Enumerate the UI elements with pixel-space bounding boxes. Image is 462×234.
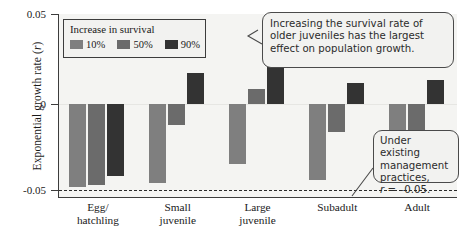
x-axis-category-label: Adult [377,201,457,214]
bar [69,104,86,187]
x-axis-category-label: Subadult [297,201,377,214]
legend-title: Increase in survival [70,23,200,36]
y-tick-label-bottom: -0.05 [2,184,46,196]
y-axis-title-close: ) [31,42,43,46]
callout-bottom-line3: practices, [380,172,452,184]
callout-bottom-line2: management [380,160,452,172]
x-axis-label-line1: Subadult [297,201,377,214]
bar [187,73,204,104]
y-tick-label-top: 0.05 [2,8,46,20]
bar [88,104,105,185]
x-axis-label-line1: Large [218,201,298,214]
annotation-callout-top: Increasing the survival rate of older ju… [262,12,454,68]
legend-entry: 50% [117,39,152,50]
x-axis-label-line1: Small [138,201,218,214]
y-tick-mark-top [51,14,58,15]
callout-bottom-line4: r = –0.05. [380,184,452,196]
callout-bottom-value: = –0.05. [384,184,430,195]
y-tick-mark-mid [51,104,58,105]
bar [149,104,166,183]
x-axis-label-line2: juvenile [138,214,218,227]
legend-entry-label: 10% [86,39,105,50]
legend-entry-label: 90% [181,39,200,50]
x-axis-label-line1: Egg/ [58,201,138,214]
bar [229,104,246,164]
x-axis-category-label: Egg/hatchling [58,201,138,227]
legend: Increase in survival 10%50%90% [63,19,206,58]
x-axis-category-label: Smalljuvenile [138,201,218,227]
bar [328,104,345,132]
legend-entry: 90% [165,39,200,50]
callout-bottom-line1: Under existing [380,135,452,160]
legend-swatch-icon [165,40,178,49]
annotation-callout-bottom: Under existing management practices, r =… [373,130,459,183]
legend-entries: 10%50%90% [70,39,200,50]
bar [107,104,124,176]
y-axis-title-text: Exponential growth rate ( [31,50,43,170]
bar [427,80,444,104]
legend-swatch-icon [70,40,83,49]
chart-figure: Exponential growth rate (r) 0.05 0 -0.05… [0,0,462,234]
bar [347,83,364,104]
y-axis-title-symbol: r [31,46,43,51]
x-axis-label-line2: juvenile [218,214,298,227]
bar [309,104,326,180]
y-tick-label-mid: 0 [2,98,46,110]
legend-entry: 10% [70,39,105,50]
x-axis-category-label: Largejuvenile [218,201,298,227]
legend-swatch-icon [117,40,130,49]
x-axis-labels: Egg/hatchlingSmalljuvenileLargejuvenileS… [58,201,457,233]
legend-entry-label: 50% [133,39,152,50]
x-axis-label-line2: hatchling [58,214,138,227]
bar [168,104,185,125]
y-tick-mark-bottom [51,190,58,191]
x-axis-label-line1: Adult [377,201,457,214]
bar [248,89,265,104]
